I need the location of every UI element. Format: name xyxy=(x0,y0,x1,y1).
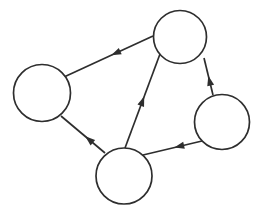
edge-bottom-to-left xyxy=(61,116,105,153)
edge-right-to-bottom xyxy=(143,141,202,155)
node-top xyxy=(154,11,207,64)
edge-right-to-top-arrowhead-icon xyxy=(207,76,214,87)
node-left xyxy=(14,65,71,122)
node-bottom xyxy=(96,148,152,204)
node-right xyxy=(195,95,250,150)
edge-top-to-left-arrowhead-icon xyxy=(111,48,122,55)
edge-top-to-left xyxy=(64,36,153,77)
diagram-canvas xyxy=(0,0,258,213)
edge-bottom-to-top-arrowhead-icon xyxy=(137,96,144,107)
graph-svg xyxy=(0,0,258,213)
edge-right-to-bottom-arrowhead-icon xyxy=(174,142,185,149)
